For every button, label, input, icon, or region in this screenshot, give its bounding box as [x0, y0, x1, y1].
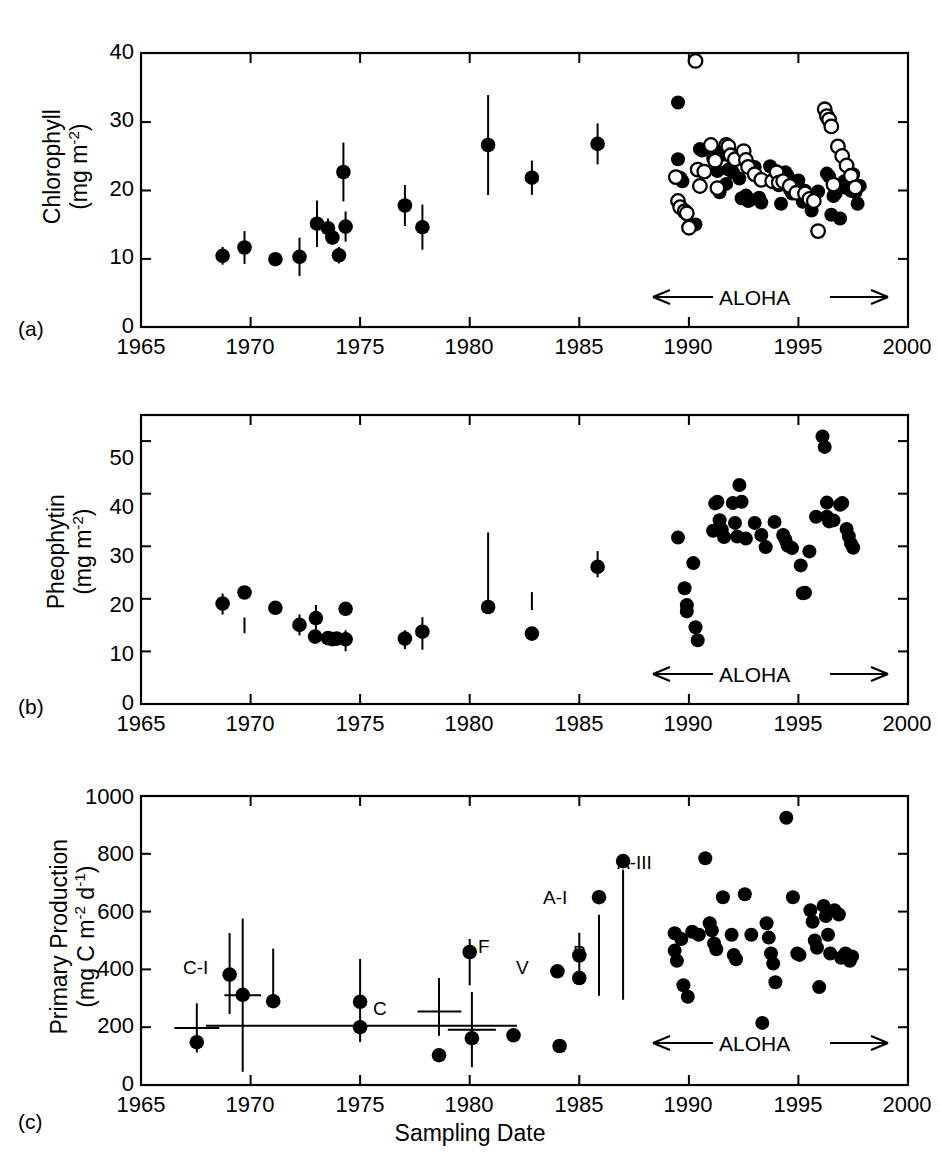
panel-a-chlorophyll: (a) Chlorophyll (mg m-2) 0 10 20 30 40 1…	[0, 0, 939, 390]
panel-c-primary-production: (c) Primary Production (mg C m-2 d-1) 0 …	[0, 760, 939, 1176]
panel-b-hot-points	[671, 429, 860, 647]
panel-b-historical-points	[215, 560, 605, 647]
panel-b-data	[215, 429, 860, 651]
panel-c-plot	[0, 760, 939, 1100]
panel-c-data	[174, 811, 859, 1072]
panel-a-historical-points	[215, 137, 605, 267]
figure-container: (a) Chlorophyll (mg m-2) 0 10 20 30 40 1…	[0, 0, 939, 1176]
panel-c-xlabel: Sampling Date	[375, 1120, 565, 1147]
panel-a-aloha-arrows	[653, 290, 888, 304]
panel-b-aloha-arrows	[653, 667, 888, 681]
panel-b-plot	[0, 390, 939, 720]
panel-b-xticks	[251, 415, 799, 704]
panel-c-frame	[141, 796, 908, 1085]
panel-a-errorbars	[223, 95, 598, 276]
panel-c-historical-points	[190, 854, 631, 1063]
panel-c-hot-points	[668, 811, 859, 1030]
panel-c-yticks	[141, 854, 908, 1027]
panel-a-plot	[0, 0, 939, 340]
panel-c-tag: (c)	[18, 1110, 43, 1134]
panel-b-errorbars	[223, 532, 598, 651]
panel-a-data	[215, 54, 867, 276]
panel-c-aloha-arrows	[653, 1036, 888, 1050]
panel-b-pheophytin: (b) Pheophytin (mg m-2) 0 10 20 30 40 50…	[0, 390, 939, 760]
panel-b-frame	[141, 415, 908, 704]
